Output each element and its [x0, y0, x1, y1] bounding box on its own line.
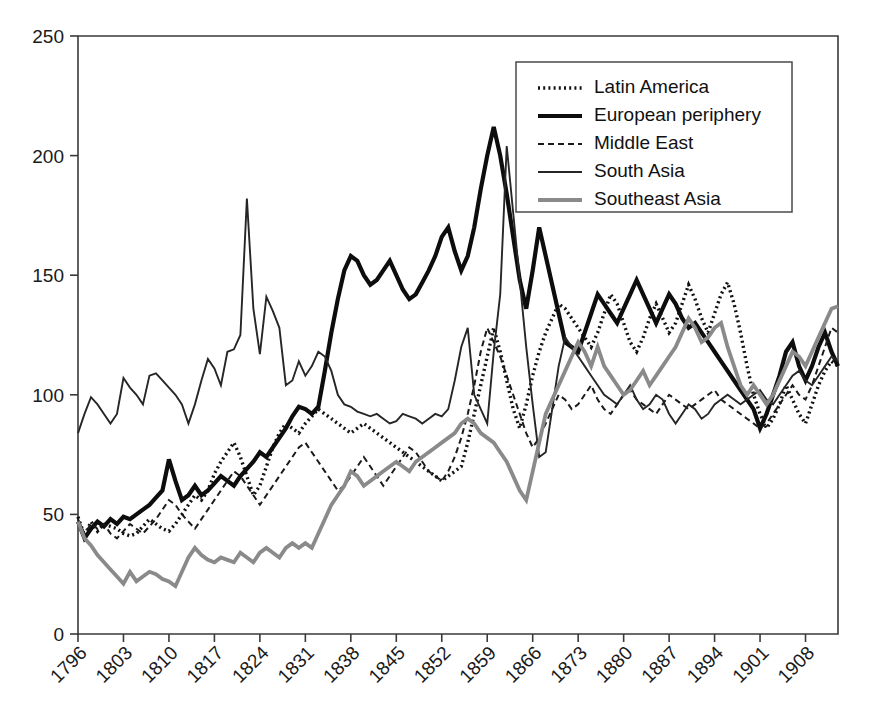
y-tick-label: 100	[32, 385, 64, 406]
x-axis-tick-labels: 1796180318101817182418311838184518521859…	[46, 642, 818, 687]
legend-label-latin-america: Latin America	[594, 76, 710, 97]
x-tick-label: 1894	[683, 642, 728, 687]
x-tick-label: 1880	[592, 642, 637, 687]
chart-legend: Latin AmericaEuropean peripheryMiddle Ea…	[516, 62, 792, 212]
y-tick-label: 150	[32, 265, 64, 286]
y-tick-label: 250	[32, 26, 64, 47]
x-tick-label: 1873	[546, 642, 591, 687]
x-tick-label: 1866	[501, 642, 546, 687]
y-tick-label: 50	[43, 504, 64, 525]
x-tick-label: 1831	[273, 642, 318, 687]
series-line-southeast-asia	[78, 306, 838, 586]
x-tick-label: 1845	[364, 642, 409, 687]
legend-label-south-asia: South Asia	[594, 160, 685, 181]
x-axis-tick-marks	[78, 634, 806, 642]
y-axis-tick-labels: 050100150200250	[32, 26, 64, 645]
x-tick-label: 1803	[92, 642, 137, 687]
x-tick-label: 1901	[728, 642, 773, 687]
x-tick-label: 1824	[228, 642, 273, 687]
y-tick-label: 200	[32, 146, 64, 167]
x-tick-label: 1908	[774, 642, 819, 687]
y-axis-tick-marks	[70, 36, 78, 634]
legend-label-middle-east: Middle East	[594, 132, 694, 153]
chart-canvas: 050100150200250 179618031810181718241831…	[0, 0, 876, 711]
x-tick-label: 1859	[455, 642, 500, 687]
x-tick-label: 1810	[137, 642, 182, 687]
legend-label-european-periphery: European periphery	[594, 104, 761, 125]
line-chart: 050100150200250 179618031810181718241831…	[0, 0, 876, 711]
legend-label-southeast-asia: Southeast Asia	[594, 188, 721, 209]
x-tick-label: 1852	[410, 642, 455, 687]
x-tick-label: 1796	[46, 642, 91, 687]
x-tick-label: 1838	[319, 642, 364, 687]
series-line-latin-america	[78, 282, 838, 536]
y-tick-label: 0	[53, 624, 64, 645]
x-tick-label: 1887	[637, 642, 682, 687]
x-tick-label: 1817	[182, 642, 227, 687]
